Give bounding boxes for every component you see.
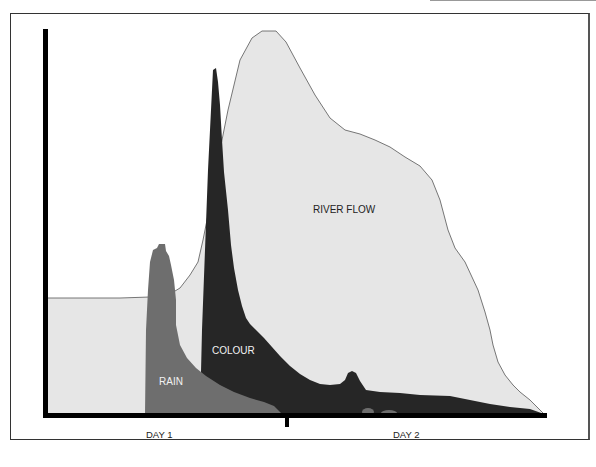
river-flow-label: RIVER FLOW xyxy=(313,204,376,215)
river-flow-area xyxy=(47,31,544,414)
day1-label: DAY 1 xyxy=(146,429,173,440)
day2-label: DAY 2 xyxy=(393,429,420,440)
hydrograph-chart: RIVER FLOW COLOUR RAIN DAY 1 DAY 2 xyxy=(0,0,596,467)
colour-label: COLOUR xyxy=(212,345,255,356)
rain-label: RAIN xyxy=(159,376,183,387)
day-divider-tick xyxy=(285,418,289,427)
x-axis xyxy=(43,413,547,418)
y-axis xyxy=(43,29,48,418)
